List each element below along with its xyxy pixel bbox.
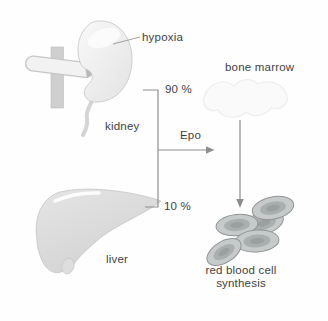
synthesis-arrow	[236, 120, 244, 208]
percentage-bracket	[143, 90, 158, 207]
kidney-label: kidney	[105, 120, 139, 133]
epo-production-diagram: hypoxia 90 % kidney Epo 10 % liver bone …	[0, 0, 328, 321]
kidney-percent-label: 90 %	[165, 83, 192, 96]
hypoxia-label: hypoxia	[142, 31, 183, 44]
bone-marrow-illustration	[203, 80, 287, 117]
rbc-label-line2: synthesis	[216, 277, 266, 289]
rbc-label-line1: red blood cell	[205, 264, 276, 276]
epo-arrowhead	[206, 146, 215, 154]
red-blood-cell-synthesis-label: red blood cell synthesis	[195, 264, 287, 290]
epo-arrow	[158, 146, 215, 154]
kidney-vessel-tube	[33, 64, 86, 71]
bone-marrow-label: bone marrow	[225, 61, 294, 74]
liver-percent-label: 10 %	[164, 200, 191, 213]
liver-illustration	[36, 189, 161, 275]
kidney-vessel-bar	[51, 47, 64, 108]
epo-label: Epo	[180, 129, 201, 142]
red-blood-cells-icon	[202, 193, 296, 271]
synthesis-arrowhead	[236, 199, 244, 208]
liver-label: liver	[106, 253, 128, 266]
kidney-illustration	[33, 21, 132, 135]
